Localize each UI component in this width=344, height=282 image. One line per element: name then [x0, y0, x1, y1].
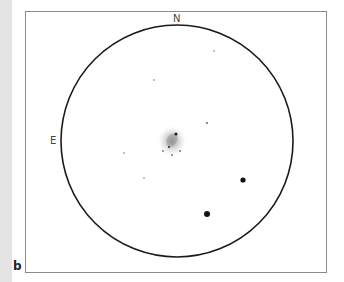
faint-star [143, 177, 144, 178]
field-stars [123, 50, 245, 217]
panel-label: b [13, 259, 22, 273]
north-label: N [173, 14, 180, 24]
bright-star [240, 177, 245, 182]
embedded-star [168, 146, 170, 148]
embedded-star [171, 154, 173, 156]
east-label: E [50, 136, 56, 146]
embedded-star [162, 150, 164, 152]
faint-star [123, 152, 124, 153]
faint-star [213, 50, 214, 51]
embedded-star [174, 132, 177, 135]
faint-star [206, 122, 208, 124]
embedded-star [179, 150, 181, 152]
faint-star [153, 79, 154, 80]
bright-star [204, 211, 210, 217]
